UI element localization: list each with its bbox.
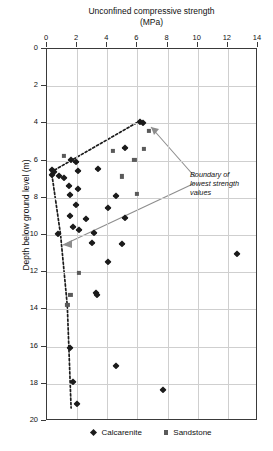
- data-point-sandstone: [135, 192, 139, 196]
- data-point-calcarenite: [119, 241, 126, 248]
- x-axis-tick: [227, 42, 228, 47]
- data-point-calcarenite: [60, 175, 67, 182]
- data-point-calcarenite: [89, 240, 96, 247]
- plot-area: [46, 48, 257, 420]
- data-point-sandstone: [110, 149, 114, 153]
- data-point-calcarenite: [73, 401, 80, 408]
- data-point-sandstone: [68, 292, 72, 296]
- gridline-horizontal: [47, 198, 256, 199]
- data-point-calcarenite: [159, 387, 166, 394]
- x-axis-tick-label: 2: [66, 33, 86, 42]
- data-point-calcarenite: [65, 182, 72, 189]
- y-axis-tick-label: 12: [24, 266, 38, 275]
- data-point-calcarenite: [67, 213, 74, 220]
- y-axis-tick: [41, 234, 46, 235]
- x-axis-tick-label: 10: [187, 33, 207, 42]
- chart-title-line-1: Unconfined compressive strength: [46, 6, 257, 17]
- y-axis-tick-label: 0: [24, 43, 38, 52]
- x-axis-tick-label: 14: [247, 33, 267, 42]
- data-point-calcarenite: [121, 144, 128, 151]
- y-axis-tick: [41, 48, 46, 49]
- gridline-vertical: [198, 49, 199, 419]
- y-axis-tick: [41, 197, 46, 198]
- data-point-calcarenite: [104, 258, 111, 265]
- x-axis-tick: [136, 42, 137, 47]
- gridline-horizontal: [47, 384, 256, 385]
- data-point-calcarenite: [72, 202, 79, 209]
- annotation-line-3: values: [190, 188, 268, 197]
- arrowhead-upper: [151, 127, 159, 135]
- diamond-marker-icon: [90, 429, 97, 436]
- data-point-sandstone: [147, 129, 151, 133]
- x-axis-tick: [76, 42, 77, 47]
- y-axis-tick-label: 8: [24, 192, 38, 201]
- gridline-vertical: [228, 49, 229, 419]
- y-axis-tick-label: 14: [24, 303, 38, 312]
- data-point-calcarenite: [54, 230, 61, 237]
- x-axis-tick-label: 6: [126, 33, 146, 42]
- data-point-calcarenite: [94, 292, 101, 299]
- data-point-calcarenite: [95, 165, 102, 172]
- annotation-leader-lines: [63, 127, 195, 245]
- gridline-horizontal: [47, 123, 256, 124]
- gridline-vertical: [77, 49, 78, 419]
- gridline-horizontal: [47, 235, 256, 236]
- square-marker-icon: [164, 430, 168, 434]
- annotation-line-2: lowest strength: [190, 179, 268, 188]
- y-axis-tick-label: 18: [24, 378, 38, 387]
- legend-label-sandstone: Sandstone: [173, 428, 211, 437]
- annotation-line-1: Boundary of: [190, 170, 268, 179]
- boundary-annotation: Boundary of lowest strength values: [190, 170, 268, 198]
- x-axis-tick-label: 12: [217, 33, 237, 42]
- y-axis-tick-label: 6: [24, 155, 38, 164]
- data-point-calcarenite: [233, 250, 240, 257]
- x-axis-tick: [197, 42, 198, 47]
- data-point-calcarenite: [121, 215, 128, 222]
- arrowhead-lower: [63, 240, 72, 248]
- data-point-calcarenite: [104, 204, 111, 211]
- x-axis-tick: [167, 42, 168, 47]
- y-axis-tick-label: 10: [24, 229, 38, 238]
- data-point-sandstone: [120, 174, 124, 178]
- chart-legend: Calcarenite Sandstone: [46, 428, 257, 437]
- gridline-vertical: [168, 49, 169, 419]
- y-axis-tick: [41, 271, 46, 272]
- chart-title: Unconfined compressive strength (MPa): [46, 6, 257, 28]
- legend-label-calcarenite: Calcarenite: [101, 428, 141, 437]
- y-axis-tick: [41, 420, 46, 421]
- x-axis-tick-label: 0: [36, 33, 56, 42]
- x-axis-tick-label: 8: [157, 33, 177, 42]
- data-point-sandstone: [65, 303, 69, 307]
- gridline-vertical: [107, 49, 108, 419]
- y-axis-tick-label: 16: [24, 341, 38, 350]
- chart-title-line-2: (MPa): [46, 17, 257, 28]
- y-axis-tick: [41, 160, 46, 161]
- y-axis-tick: [41, 346, 46, 347]
- legend-item-calcarenite: Calcarenite: [91, 428, 141, 437]
- y-axis-title: Depth below ground level (m): [21, 125, 31, 305]
- gridline-horizontal: [47, 347, 256, 348]
- y-axis-tick-label: 20: [24, 415, 38, 424]
- boundary-line: [52, 121, 141, 408]
- legend-item-sandstone: Sandstone: [164, 428, 212, 437]
- gridline-horizontal: [47, 86, 256, 87]
- data-point-calcarenite: [139, 120, 146, 127]
- data-point-calcarenite: [67, 344, 74, 351]
- x-axis-tick: [106, 42, 107, 47]
- chart-figure: Unconfined compressive strength (MPa) De…: [0, 0, 273, 451]
- data-point-sandstone: [61, 154, 65, 158]
- x-axis-tick: [257, 42, 258, 47]
- gridline-vertical: [137, 49, 138, 419]
- y-axis-tick: [41, 308, 46, 309]
- data-point-calcarenite: [75, 227, 82, 234]
- y-axis-tick: [41, 122, 46, 123]
- data-point-sandstone: [142, 146, 146, 150]
- data-point-sandstone: [132, 158, 136, 162]
- data-point-calcarenite: [83, 216, 90, 223]
- data-point-calcarenite: [112, 362, 119, 369]
- y-axis-tick-label: 2: [24, 80, 38, 89]
- x-axis-tick: [46, 42, 47, 47]
- y-axis-tick-label: 4: [24, 117, 38, 126]
- y-axis-tick: [41, 383, 46, 384]
- data-point-calcarenite: [74, 167, 81, 174]
